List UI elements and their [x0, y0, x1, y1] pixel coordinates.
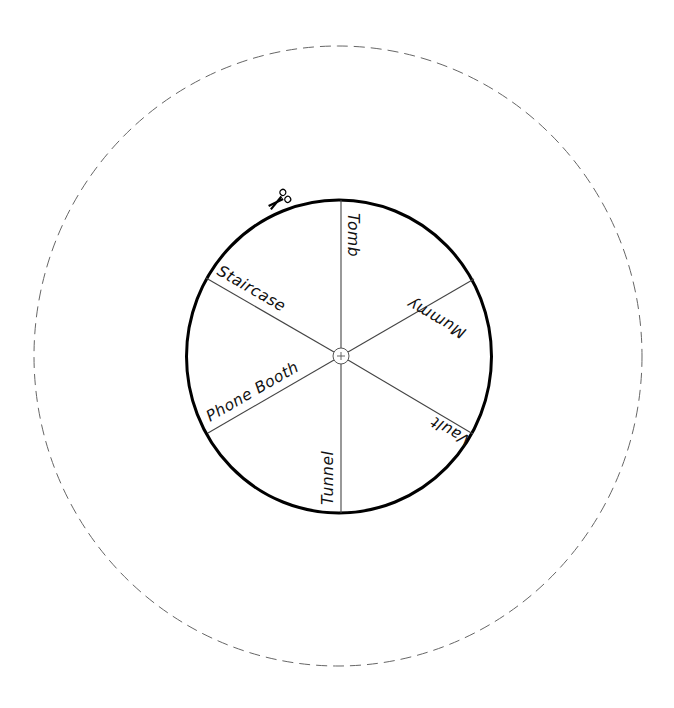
segment-label-phone-booth: Phone Booth: [203, 358, 302, 426]
spoke-upper-right: [348, 279, 474, 352]
segment-label-tunnel: Tunnel: [319, 451, 337, 505]
spinner-diagram: Tomb Mummy Vault Tunnel Phone Booth Stai…: [0, 0, 674, 708]
center-hub: [333, 348, 349, 364]
segment-label-vault: Vault: [427, 412, 473, 449]
segment-label-tomb: Tomb: [344, 213, 362, 257]
